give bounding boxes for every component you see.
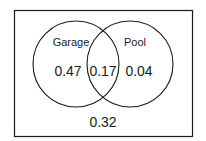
venn-diagram: Garage Pool 0.47 0.17 0.04 0.32: [0, 0, 206, 141]
intersection-value: 0.17: [89, 63, 116, 79]
pool-label: Pool: [124, 36, 146, 48]
garage-label: Garage: [53, 36, 90, 48]
pool-only-value: 0.04: [125, 63, 152, 79]
outside-value: 0.32: [89, 114, 116, 130]
garage-only-value: 0.47: [54, 63, 81, 79]
